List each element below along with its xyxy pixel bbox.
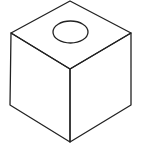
hole-ellipse <box>53 21 88 43</box>
cube-left-face <box>10 33 70 142</box>
cube-drawing <box>0 0 143 149</box>
cube-right-face <box>70 33 131 142</box>
cube-top-face <box>11 1 131 69</box>
cube-diagram <box>0 0 143 149</box>
